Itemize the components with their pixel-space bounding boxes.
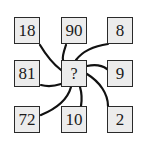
number-box-top-right: 8 xyxy=(107,17,133,44)
connector-top-right xyxy=(76,44,108,60)
number-box-middle-left: 81 xyxy=(14,60,40,87)
connector-bottom-right xyxy=(87,74,108,106)
connector-top-middle xyxy=(63,45,66,60)
number-box-bottom-middle: 10 xyxy=(61,106,87,133)
number-box-bottom-right: 2 xyxy=(107,106,133,133)
number-box-top-middle: 90 xyxy=(61,17,87,44)
number-puzzle-diagram: 18 90 8 81 ? 9 72 10 2 xyxy=(0,0,144,143)
connector-top-left xyxy=(40,45,61,70)
number-box-middle-right: 9 xyxy=(107,60,133,87)
center-question-box: ? xyxy=(61,60,87,87)
number-box-bottom-left: 72 xyxy=(14,106,40,133)
connector-middle-left xyxy=(41,84,61,86)
connector-middle-right xyxy=(87,65,107,69)
number-box-top-left: 18 xyxy=(14,17,40,44)
connector-bottom-middle xyxy=(80,87,82,106)
